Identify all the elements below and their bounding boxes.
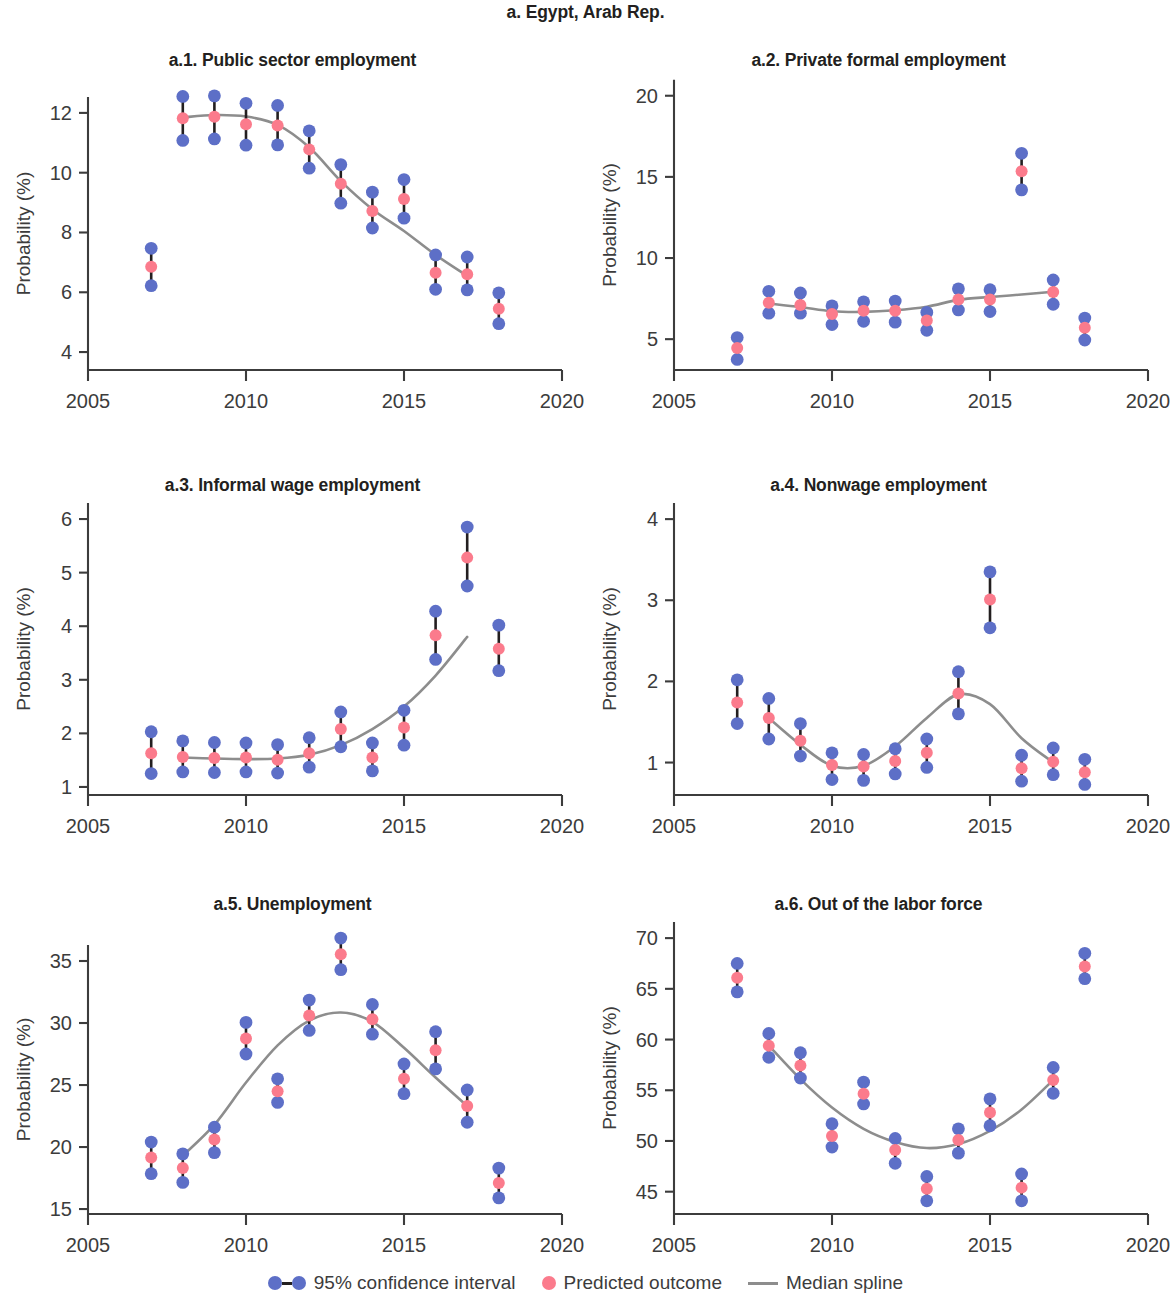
predicted-dot <box>398 721 410 733</box>
data-series <box>145 89 505 330</box>
predicted-dot <box>398 1073 410 1085</box>
ci-low-dot <box>952 1147 965 1160</box>
ci-low-dot <box>1015 1194 1028 1207</box>
legend-item-ci: 95% confidence interval <box>268 1272 516 1294</box>
ci-high-dot <box>334 932 347 945</box>
ci-high-dot <box>429 605 442 618</box>
ci-low-dot <box>762 733 775 746</box>
predicted-dot <box>366 205 378 217</box>
ci-low-dot <box>731 353 744 366</box>
predicted-dot <box>430 1044 442 1056</box>
data-series <box>145 932 505 1205</box>
x-tick-label: 2020 <box>540 1234 585 1256</box>
predicted-dot <box>366 751 378 763</box>
ci-low-dot <box>176 1176 189 1189</box>
ci-high-dot <box>240 737 253 750</box>
ci-low-dot <box>240 1048 253 1061</box>
ci-high-dot <box>366 186 379 199</box>
ci-high-dot <box>794 287 807 300</box>
predicted-dot <box>731 342 743 354</box>
ci-low-dot <box>794 1072 807 1085</box>
ci-low-dot <box>271 767 284 780</box>
predicted-dot <box>763 712 775 724</box>
ci-low-dot <box>271 1096 284 1109</box>
predicted-dot <box>763 1040 775 1052</box>
ci-high-dot <box>398 1058 411 1071</box>
data-series <box>731 947 1091 1207</box>
predicted-dot <box>1047 756 1059 768</box>
ci-high-dot <box>303 731 316 744</box>
ci-high-dot <box>889 1132 902 1145</box>
ci-low-dot <box>303 1024 316 1037</box>
predicted-dot <box>366 1013 378 1025</box>
figure-root: a. Egypt, Arab Rep. a.1. Public sector e… <box>0 0 1171 1308</box>
ci-high-dot <box>461 521 474 534</box>
predicted-dot <box>1016 762 1028 774</box>
predicted-dot <box>461 552 473 564</box>
x-tick-label: 2020 <box>540 815 585 837</box>
ci-connector-icon <box>282 1282 292 1285</box>
y-tick-label: 1 <box>61 776 72 798</box>
ci-high-dot <box>1015 1168 1028 1181</box>
y-tick-label: 12 <box>50 102 72 124</box>
legend-item-spline: Median spline <box>748 1272 903 1294</box>
ci-low-dot <box>826 773 839 786</box>
predicted-dot <box>1079 766 1091 778</box>
ci-low-dot <box>145 767 158 780</box>
x-tick-label: 2005 <box>66 1234 111 1256</box>
predicted-dot <box>826 308 838 320</box>
predicted-dot <box>984 293 996 305</box>
ci-high-dot <box>1015 749 1028 762</box>
ci-high-dot <box>208 1121 221 1134</box>
ci-low-dot <box>461 580 474 593</box>
ci-low-dot <box>984 305 997 318</box>
y-tick-label: 30 <box>50 1012 72 1034</box>
predicted-dot <box>794 299 806 311</box>
ci-high-dot <box>429 249 442 262</box>
ci-high-dot <box>492 286 505 299</box>
predicted-dot <box>826 759 838 771</box>
predicted-dot <box>145 261 157 273</box>
ci-high-dot <box>492 1162 505 1175</box>
x-tick-label: 2005 <box>66 815 111 837</box>
predicted-dot <box>493 303 505 315</box>
panel-a6: a.6. Out of the labor force 455055606570… <box>586 862 1171 1282</box>
ci-low-dot <box>492 1191 505 1204</box>
predicted-dot <box>240 1033 252 1045</box>
x-tick-label: 2010 <box>224 390 269 412</box>
predicted-dot <box>335 723 347 735</box>
plot-area: 4550556065702005201020152020Probability … <box>586 862 1171 1282</box>
predicted-dot <box>763 297 775 309</box>
ci-low-dot <box>952 707 965 720</box>
x-tick-label: 2010 <box>224 815 269 837</box>
y-tick-label: 5 <box>647 328 658 350</box>
ci-low-dot <box>920 761 933 774</box>
ci-low-dot <box>1078 778 1091 791</box>
predicted-dot <box>177 112 189 124</box>
panel-a1: a.1. Public sector employment 4681012200… <box>0 18 585 438</box>
y-tick-label: 35 <box>50 950 72 972</box>
ci-high-dot <box>303 994 316 1007</box>
ci-low-dot <box>762 1051 775 1064</box>
ci-low-dot <box>1047 1087 1060 1100</box>
ci-high-dot <box>176 1147 189 1160</box>
ci-high-dot <box>1078 947 1091 960</box>
ci-dot-left-icon <box>268 1276 282 1290</box>
predicted-dot <box>493 643 505 655</box>
predicted-dot <box>1079 961 1091 973</box>
predicted-dot <box>984 593 996 605</box>
predicted-dot <box>240 751 252 763</box>
predicted-dot <box>303 1010 315 1022</box>
y-tick-label: 20 <box>636 85 658 107</box>
predicted-dot <box>921 747 933 759</box>
ci-low-dot <box>145 279 158 292</box>
y-tick-label: 45 <box>636 1181 658 1203</box>
x-tick-label: 2005 <box>652 1234 697 1256</box>
y-axis-label: Probability (%) <box>599 587 620 711</box>
predicted-dot <box>952 1134 964 1146</box>
ci-high-dot <box>920 733 933 746</box>
ci-low-dot <box>1078 972 1091 985</box>
ci-low-dot <box>398 212 411 225</box>
ci-low-dot <box>826 1141 839 1154</box>
predicted-dot <box>794 1059 806 1071</box>
